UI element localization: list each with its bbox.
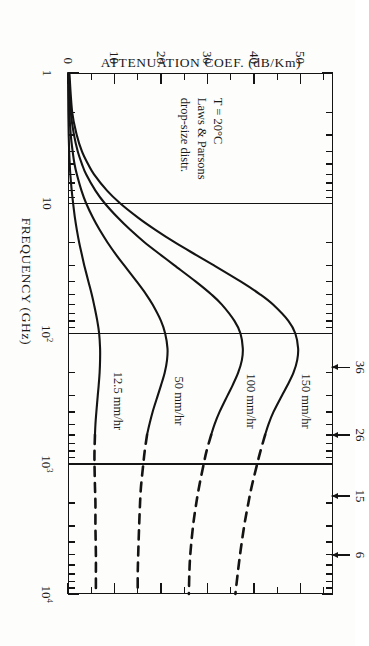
x-axis-minor-tick (68, 163, 75, 164)
curve-label-12.5mmhr: 12.5 mm/hr (110, 372, 125, 430)
y-axis-major-tick-right (207, 583, 208, 594)
endpoint-arrow-value-26: 26 (352, 429, 368, 442)
y-axis-minor-tick (91, 73, 92, 80)
x-axis-minor-tick (68, 450, 75, 451)
x-axis-minor-tick-top (326, 502, 333, 503)
x-axis-minor-tick-top (326, 327, 333, 328)
x-axis-tick-label: 104 (40, 585, 54, 602)
x-axis-title: FREQUENCY (GHz) (18, 218, 34, 345)
x-axis-minor-tick-top (326, 541, 333, 542)
x-axis-minor-tick-top (326, 443, 333, 444)
x-axis-minor-tick-top (326, 163, 333, 164)
x-axis-minor-tick (68, 265, 75, 266)
x-axis-minor-tick-top (326, 134, 333, 135)
y-axis-title: ATTENUATION COEF. (dB/Km) (2, 55, 369, 71)
x-axis-minor-tick (68, 182, 75, 183)
x-axis-minor-tick-top (326, 372, 333, 373)
x-axis-minor-tick (68, 320, 75, 321)
y-axis-major-tick-right (300, 583, 301, 594)
endpoint-arrow-shaft (337, 434, 350, 435)
x-axis-minor-tick-top (326, 112, 333, 113)
x-axis-minor-tick-top (326, 587, 333, 588)
y-axis-minor-tick-right (277, 587, 278, 594)
x-axis-minor-tick-top (326, 151, 333, 152)
x-axis-minor-tick-top (326, 450, 333, 451)
x-axis-minor-tick-top (326, 395, 333, 396)
x-axis-minor-tick (68, 313, 75, 314)
y-axis-minor-tick (277, 73, 278, 80)
y-axis-major-tick-right (253, 583, 254, 594)
x-axis-minor-tick (68, 564, 75, 565)
curve-label-50mmhr: 50 mm/hr (171, 377, 186, 426)
x-axis-minor-tick-top (326, 242, 333, 243)
y-axis-minor-tick-right (184, 587, 185, 594)
x-axis-minor-tick (68, 151, 75, 152)
y-axis-minor-tick-right (137, 587, 138, 594)
x-axis-minor-tick-top (326, 190, 333, 191)
endpoint-arrow-shaft (337, 495, 350, 496)
annotation-temperature: T = 20°C (210, 98, 227, 180)
x-tick-exponent: 2 (45, 338, 55, 342)
x-axis-minor-tick (68, 372, 75, 373)
x-axis-minor-tick (68, 581, 75, 582)
endpoint-arrow-head (332, 364, 338, 370)
curve-label-150mmhr: 150 mm/hr (298, 373, 313, 428)
decade-separator-line (68, 203, 333, 205)
y-axis-minor-tick-right (230, 587, 231, 594)
x-axis-minor-tick-top (326, 182, 333, 183)
x-axis-minor-tick (68, 174, 75, 175)
y-axis-major-tick (160, 73, 161, 84)
x-axis-minor-tick-top (326, 525, 333, 526)
endpoint-arrow-value-6: 6 (352, 552, 368, 559)
conditions-annotation: T = 20°C Laws & Parsons drop-size distr. (177, 98, 227, 180)
x-axis-minor-tick (68, 242, 75, 243)
decade-separator-line (68, 463, 333, 465)
endpoint-arrow-value-15: 15 (352, 490, 368, 503)
x-axis-minor-tick (68, 587, 75, 588)
x-axis-minor-tick-top (326, 294, 333, 295)
endpoint-arrow-head (332, 432, 338, 438)
x-axis-minor-tick (68, 304, 75, 305)
x-axis-minor-tick (68, 434, 75, 435)
x-axis-minor-tick (68, 327, 75, 328)
x-axis-minor-tick-top (326, 174, 333, 175)
endpoint-arrow-shaft (337, 367, 350, 368)
x-axis-minor-tick (68, 457, 75, 458)
y-axis-major-tick (114, 73, 115, 84)
y-axis-minor-tick-right (323, 587, 324, 594)
x-axis-minor-tick (68, 443, 75, 444)
x-axis-minor-tick-top (326, 304, 333, 305)
x-axis-minor-tick-top (326, 573, 333, 574)
x-axis-tick-label: 102 (40, 325, 54, 342)
y-axis-minor-tick (323, 73, 324, 80)
x-axis-minor-tick (68, 294, 75, 295)
endpoint-arrow-head (332, 493, 338, 499)
x-axis-minor-tick (68, 541, 75, 542)
x-axis-minor-tick (68, 190, 75, 191)
x-axis-minor-tick (68, 554, 75, 555)
endpoint-arrow-head (332, 552, 338, 558)
x-axis-minor-tick (68, 112, 75, 113)
curve-label-100mmhr: 100 mm/hr (242, 373, 257, 428)
decade-separator-line (68, 333, 333, 335)
x-axis-minor-tick (68, 134, 75, 135)
x-axis-minor-tick-top (326, 581, 333, 582)
x-axis-minor-tick-top (326, 197, 333, 198)
x-axis-minor-tick (68, 424, 75, 425)
x-axis-major-tick (68, 72, 79, 73)
y-axis-major-tick (207, 73, 208, 84)
x-axis-minor-tick-top (326, 265, 333, 266)
x-tick-exponent: 4 (45, 598, 55, 602)
annotation-dropsize-model: Laws & Parsons (193, 98, 210, 180)
annotation-dropsize-distr: drop-size distr. (177, 98, 194, 180)
endpoint-arrow-value-36: 36 (352, 361, 368, 374)
x-axis-minor-tick-top (326, 313, 333, 314)
endpoint-arrow-shaft (337, 554, 350, 555)
y-axis-major-tick-right (160, 583, 161, 594)
y-axis-major-tick (300, 73, 301, 84)
x-axis-minor-tick (68, 502, 75, 503)
y-axis-major-tick (253, 73, 254, 84)
